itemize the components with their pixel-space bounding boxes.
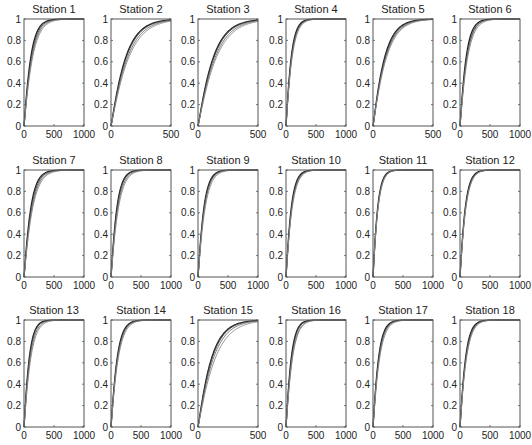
x-tick-label: 0 [195, 280, 201, 291]
y-tick-label: 0.4 [356, 229, 370, 240]
cdf-curve [460, 19, 520, 126]
y-tick-label: 0.4 [356, 379, 370, 390]
x-tick-label: 1000 [335, 280, 358, 291]
y-tick-label: 0.2 [94, 250, 108, 261]
x-tick-label: 0 [283, 280, 289, 291]
cdf-curve [460, 320, 520, 427]
x-tick-label: 500 [163, 129, 180, 140]
x-tick-label: 500 [133, 430, 150, 441]
y-tick-label: 0.2 [443, 250, 457, 261]
y-tick-label: 0.8 [443, 186, 457, 197]
x-tick-label: 0 [283, 430, 289, 441]
x-tick-label: 0 [108, 430, 114, 441]
y-tick-label: 0.4 [443, 78, 457, 89]
x-tick-label: 500 [482, 430, 499, 441]
x-tick-label: 1000 [160, 280, 183, 291]
x-tick-label: 0 [195, 129, 201, 140]
chart-canvas: Station 100.20.40.60.8105001000Station 2… [0, 0, 532, 445]
x-tick-label: 500 [46, 430, 63, 441]
station-cdf-figure: Station 100.20.40.60.8105001000Station 2… [0, 0, 532, 445]
y-tick-label: 0.4 [181, 379, 195, 390]
y-tick-label: 1 [15, 14, 21, 25]
x-tick-label: 0 [21, 280, 27, 291]
y-tick-label: 0.2 [181, 250, 195, 261]
panel-title: Station 6 [468, 3, 511, 15]
y-tick-label: 1 [277, 14, 283, 25]
y-tick-label: 1 [189, 14, 195, 25]
y-tick-label: 0.8 [7, 336, 21, 347]
panel-title: Station 5 [381, 3, 424, 15]
y-tick-label: 0.4 [269, 78, 283, 89]
x-tick-label: 500 [250, 129, 267, 140]
x-tick-label: 0 [370, 430, 376, 441]
y-tick-label: 0.6 [269, 357, 283, 368]
y-tick-label: 1 [102, 14, 108, 25]
cdf-curve [373, 20, 433, 126]
y-tick-label: 0.8 [269, 35, 283, 46]
y-tick-label: 1 [189, 315, 195, 326]
y-tick-label: 0.6 [356, 357, 370, 368]
x-tick-label: 0 [21, 430, 27, 441]
y-tick-label: 1 [15, 165, 21, 176]
cdf-curve [24, 170, 84, 277]
cdf-curve [373, 170, 433, 277]
x-tick-label: 500 [133, 280, 150, 291]
axes-box [111, 170, 171, 277]
y-tick-label: 1 [451, 14, 457, 25]
axes-box [111, 19, 171, 126]
panel-title: Station 16 [291, 304, 341, 316]
axes-box [460, 19, 520, 126]
y-tick-label: 0.6 [94, 357, 108, 368]
y-tick-label: 0.8 [94, 186, 108, 197]
cdf-curve [111, 320, 171, 427]
y-tick-label: 0.2 [269, 400, 283, 411]
y-tick-label: 0.6 [94, 207, 108, 218]
y-tick-label: 0.4 [7, 78, 21, 89]
y-tick-label: 0.8 [356, 336, 370, 347]
panel-12: Station 1200.20.40.60.8105001000 [443, 154, 531, 291]
x-tick-label: 500 [46, 129, 63, 140]
cdf-curve [198, 170, 258, 277]
y-tick-label: 0.8 [443, 336, 457, 347]
cdf-curve [111, 21, 171, 126]
panel-15: Station 1500.20.40.60.810500 [181, 304, 267, 441]
x-tick-label: 500 [482, 129, 499, 140]
x-tick-label: 1000 [335, 129, 358, 140]
x-tick-label: 1000 [422, 280, 445, 291]
cdf-curve [24, 170, 84, 277]
y-tick-label: 0.2 [7, 400, 21, 411]
panel-title: Station 10 [291, 154, 341, 166]
y-tick-label: 0.8 [356, 186, 370, 197]
panel-title: Station 13 [29, 304, 79, 316]
x-tick-label: 500 [308, 280, 325, 291]
y-tick-label: 0.4 [443, 379, 457, 390]
y-tick-label: 0.2 [269, 250, 283, 261]
x-tick-label: 0 [108, 280, 114, 291]
y-tick-label: 0.6 [94, 56, 108, 67]
x-tick-label: 0 [195, 430, 201, 441]
panel-10: Station 1000.20.40.60.8105001000 [269, 154, 357, 291]
cdf-curve [286, 170, 346, 277]
cdf-curve [460, 19, 520, 126]
y-tick-label: 0.6 [7, 357, 21, 368]
panel-17: Station 1700.20.40.60.8105001000 [356, 304, 444, 441]
cdf-curve [460, 19, 520, 126]
x-tick-label: 500 [482, 280, 499, 291]
x-tick-label: 500 [395, 280, 412, 291]
x-tick-label: 1000 [509, 430, 532, 441]
y-tick-label: 0.2 [181, 400, 195, 411]
x-tick-label: 0 [283, 129, 289, 140]
x-tick-label: 1000 [335, 430, 358, 441]
cdf-curve [198, 170, 258, 277]
y-tick-label: 1 [189, 165, 195, 176]
y-tick-label: 0.4 [269, 229, 283, 240]
panel-title: Station 8 [119, 154, 162, 166]
panel-title: Station 11 [379, 154, 428, 166]
axes-box [111, 320, 171, 427]
x-tick-label: 500 [308, 430, 325, 441]
y-tick-label: 1 [102, 165, 108, 176]
y-tick-label: 0.8 [443, 35, 457, 46]
cdf-curve [373, 320, 433, 427]
y-tick-label: 1 [364, 14, 370, 25]
y-tick-label: 1 [102, 315, 108, 326]
